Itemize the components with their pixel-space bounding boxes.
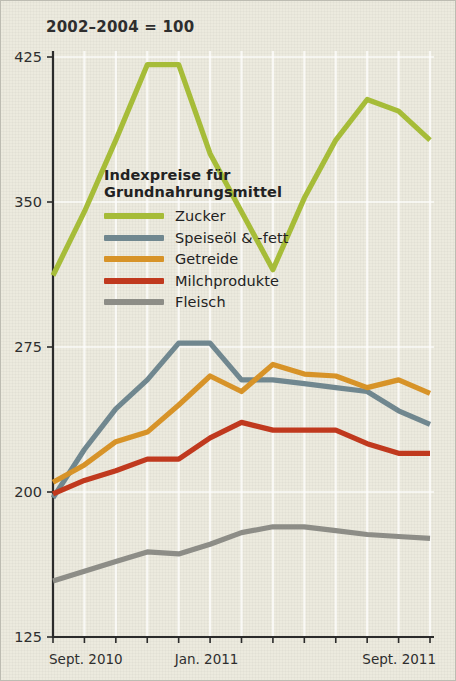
legend-color-swatch <box>104 256 164 262</box>
y-axis-tick-label: 200 <box>14 484 42 500</box>
legend-item: Speiseöl & -fett <box>104 227 309 249</box>
legend-title: Indexpreise für Grundnahrungsmittel <box>104 167 309 201</box>
legend-color-swatch <box>104 213 164 219</box>
axis-lines <box>53 51 434 637</box>
legend-item-label: Fleisch <box>175 294 226 310</box>
legend-item: Getreide <box>104 249 309 271</box>
legend-item-label: Speiseöl & -fett <box>175 230 289 246</box>
y-axis-tick-label: 275 <box>14 339 42 355</box>
legend-color-swatch <box>104 235 164 241</box>
legend-item: Zucker <box>104 206 309 228</box>
legend-item: Milchprodukte <box>104 270 309 292</box>
legend-color-swatch <box>104 299 164 305</box>
legend-item: Fleisch <box>104 292 309 314</box>
legend-title-line-1: Indexpreise für <box>104 167 309 184</box>
y-axis-tick-label: 350 <box>14 194 42 210</box>
x-axis-label: Sept. 2011 <box>362 651 436 667</box>
chart-figure: 2002–2004 = 100 425350275200125 Indexpre… <box>0 0 456 681</box>
legend-color-swatch <box>104 278 164 284</box>
chart-legend: Indexpreise für Grundnahrungsmittel Zuck… <box>104 167 309 313</box>
legend-item-label: Zucker <box>175 208 225 224</box>
legend-item-label: Milchprodukte <box>175 273 279 289</box>
x-axis-label: Sept. 2010 <box>49 651 123 667</box>
legend-title-line-2: Grundnahrungsmittel <box>104 184 309 201</box>
legend-item-label: Getreide <box>175 251 238 267</box>
legend-entries: ZuckerSpeiseöl & -fettGetreideMilchprodu… <box>104 206 309 314</box>
chart-plot-area: 425350275200125 <box>0 0 456 681</box>
x-axis-label: Jan. 2011 <box>175 651 239 667</box>
y-axis-tick-label: 425 <box>14 49 42 65</box>
y-axis-tick-label: 125 <box>14 629 42 645</box>
